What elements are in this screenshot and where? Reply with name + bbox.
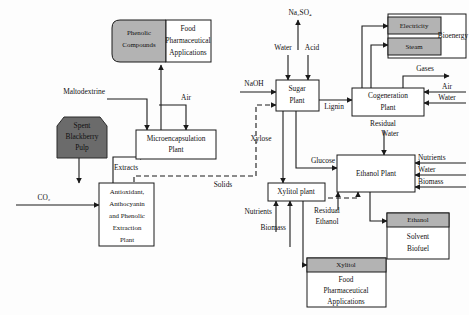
phenolic-title-line2: Compounds — [122, 41, 156, 48]
product-bioenergy[interactable]: Electricity Steam Bioenergy — [388, 14, 468, 58]
stream-label-naoh: NaOH — [244, 79, 264, 88]
flow-diagram-canvas: Phenolic Compounds Food Pharmaceutical A… — [0, 0, 469, 315]
unit-cogeneration-plant[interactable]: Cogeneration Plant — [352, 88, 424, 116]
connector-steam — [371, 45, 388, 88]
extraction-line5: Plant — [120, 236, 134, 243]
connector-ethanol-product — [370, 192, 387, 221]
connector-residual-ethanol — [320, 192, 358, 198]
microencapsulation-line2: Plant — [168, 145, 184, 154]
bioenergy-electricity-label: Electricity — [400, 22, 429, 29]
xylitol-app-line2: Pharmaceutical — [324, 286, 369, 295]
ethanol-plant-label: Ethanol Plant — [356, 169, 397, 178]
sugar-plant-line2: Plant — [289, 96, 305, 105]
stream-label-residual-water-line1: Residual — [370, 119, 396, 128]
connector-electricity — [362, 26, 388, 88]
stream-label-residual-water-line2: Water — [381, 129, 399, 138]
phenolic-title-line1: Phenolic — [127, 29, 151, 36]
extraction-line2: Anthocyanin — [109, 200, 145, 207]
stream-label-na2so4: Na₂SO₄ — [288, 8, 312, 17]
connector-xylitol-product — [303, 201, 307, 265]
stream-label-maltodextrine: Maltodextrine — [63, 87, 106, 96]
stream-label-biomass-ethanol: Biomass — [418, 177, 444, 186]
microencapsulation-line1: Microencapsulation — [147, 134, 206, 143]
stream-label-nutrients-ethanol: Nutrients — [418, 153, 446, 162]
stream-label-lignin: Lignin — [324, 102, 344, 111]
stream-label-air-micro: Air — [181, 93, 191, 102]
phenolic-app-line1: Food — [180, 24, 195, 33]
bioenergy-steam-label: Steam — [405, 43, 423, 50]
sugar-plant-line1: Sugar — [288, 84, 306, 93]
connector-air-micro — [159, 105, 186, 130]
extraction-line4: Extraction — [113, 224, 142, 231]
ethanol-app-line1: Solvent — [407, 232, 429, 241]
pulp-line1: Spent — [74, 121, 92, 130]
bioenergy-label: Bioenergy — [438, 31, 469, 40]
stream-label-residual-ethanol-line2: Ethanol — [316, 217, 339, 226]
stream-label-acid: Acid — [305, 43, 320, 52]
stream-label-gases: Gases — [416, 64, 434, 73]
stream-label-co2: CO₂ — [38, 193, 51, 202]
pulp-line2: Blackberry — [66, 132, 99, 141]
stream-label-solids: Solids — [214, 180, 233, 189]
product-ethanol[interactable]: Ethanol Solvent Biofuel — [387, 213, 449, 259]
unit-extraction-plant[interactable]: Antioxidant, Anthocyanin and Phenolic Ex… — [99, 183, 154, 246]
unit-microencapsulation-plant[interactable]: Microencapsulation Plant — [136, 130, 216, 159]
product-xylitol[interactable]: Xylitol Food Pharmaceutical Applications — [307, 258, 386, 307]
unit-xylitol-plant[interactable]: Xylitol plant — [268, 183, 325, 201]
stream-label-xylose: Xylose — [251, 134, 273, 143]
cogeneration-line1: Cogeneration — [368, 91, 408, 100]
unit-sugar-plant[interactable]: Sugar Plant — [276, 80, 319, 111]
xylitol-app-line3: Applications — [327, 297, 364, 306]
phenolic-app-line3: Applications — [169, 48, 206, 57]
stream-label-water-cogen: Water — [438, 93, 456, 102]
stream-label-biomass-xylitol: Biomass — [261, 223, 287, 232]
extraction-line1: Antioxidant, — [110, 188, 145, 195]
stream-label-air-cogen: Air — [442, 82, 452, 91]
xylitol-plant-label: Xylitol plant — [277, 187, 316, 196]
ethanol-app-line2: Biofuel — [407, 244, 429, 253]
stream-label-extracts: Extracts — [114, 163, 138, 172]
stream-label-residual-ethanol-line1: Residual — [314, 206, 340, 215]
xylitol-app-line1: Food — [338, 275, 353, 284]
phenolic-app-line2: Pharmaceutical — [166, 36, 211, 45]
feedstock-spent-blackberry-pulp[interactable]: Spent Blackberry Pulp — [57, 117, 107, 158]
extraction-line3: and Phenolic — [109, 212, 145, 219]
stream-label-nutrients-xylitol: Nutrients — [244, 207, 272, 216]
xylitol-product-label: Xylitol — [336, 261, 356, 268]
stream-label-water-ethanol: Water — [418, 165, 436, 174]
unit-ethanol-plant[interactable]: Ethanol Plant — [337, 155, 415, 192]
stream-label-water-sugar: Water — [274, 43, 292, 52]
pulp-line3: Pulp — [75, 143, 89, 152]
product-phenolic-compounds[interactable]: Phenolic Compounds Food Pharmaceutical A… — [112, 20, 211, 62]
stream-label-glucose: Glucose — [311, 156, 336, 165]
ethanol-product-label: Ethanol — [407, 216, 429, 223]
cogeneration-line2: Plant — [380, 103, 396, 112]
connector-maltodextrine — [107, 99, 147, 130]
process-flow-diagram: Phenolic Compounds Food Pharmaceutical A… — [0, 0, 469, 315]
